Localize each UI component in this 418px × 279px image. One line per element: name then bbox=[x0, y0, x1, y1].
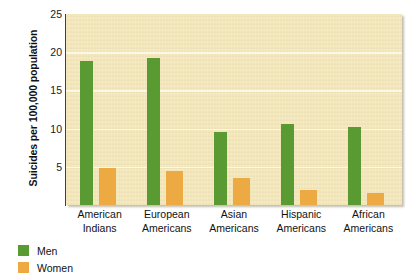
chart-legend: MenWomen bbox=[18, 242, 158, 276]
x-axis-tick-label-line: African bbox=[329, 208, 408, 222]
legend-swatch-icon bbox=[18, 262, 29, 273]
bar-chart-figure: Suicides per 100,000 population 51015202… bbox=[0, 0, 418, 279]
legend-label: Men bbox=[37, 245, 57, 257]
y-axis-tick-label: 20 bbox=[36, 46, 62, 58]
bar-group bbox=[66, 14, 133, 205]
bar-men bbox=[80, 61, 93, 205]
bar-men bbox=[214, 132, 227, 205]
y-axis-tick-label: 10 bbox=[36, 123, 62, 135]
bar-women bbox=[233, 178, 250, 205]
bar-women bbox=[367, 193, 384, 205]
plot-area bbox=[66, 14, 402, 205]
bar-group bbox=[335, 14, 402, 205]
y-axis-tick-labels: 510152025 bbox=[36, 0, 62, 279]
bar-women bbox=[166, 171, 183, 205]
legend-item-men: Men bbox=[18, 242, 158, 259]
legend-swatch-icon bbox=[18, 245, 29, 256]
y-axis-tick-label: 5 bbox=[36, 161, 62, 173]
bar-group bbox=[133, 14, 200, 205]
bar-men bbox=[147, 58, 160, 205]
y-axis-tick-label: 15 bbox=[36, 84, 62, 96]
legend-item-women: Women bbox=[18, 259, 158, 276]
bars-layer bbox=[66, 14, 402, 205]
bar-group bbox=[268, 14, 335, 205]
bar-women bbox=[300, 190, 317, 205]
bar-group bbox=[200, 14, 267, 205]
bar-women bbox=[99, 168, 116, 205]
bar-men bbox=[281, 124, 294, 205]
bar-men bbox=[348, 127, 361, 205]
y-axis-tick-label: 25 bbox=[36, 8, 62, 20]
legend-label: Women bbox=[37, 262, 73, 274]
x-axis-tick-label: AfricanAmericans bbox=[329, 208, 408, 235]
x-axis-tick-label-line: Americans bbox=[329, 222, 408, 236]
